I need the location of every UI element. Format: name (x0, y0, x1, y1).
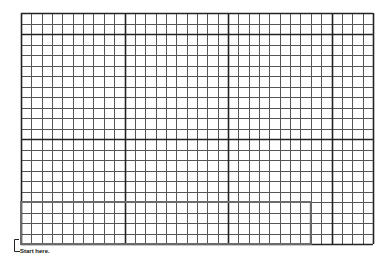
graph-paper-grid (0, 0, 388, 263)
grid-minor-lines (21, 13, 373, 244)
start-here-label: Start here. (20, 248, 50, 254)
